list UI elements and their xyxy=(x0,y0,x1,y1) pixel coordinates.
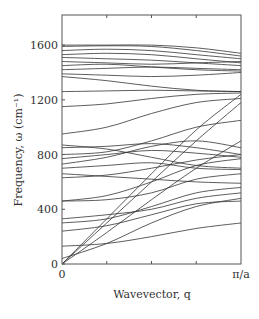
band-line xyxy=(62,67,241,70)
band-line xyxy=(62,72,241,76)
y-tick-label: 800 xyxy=(37,149,58,162)
band-line xyxy=(62,141,241,164)
chart-root: 040080012001600 0π/a Wavevector, q Frequ… xyxy=(0,0,259,319)
y-tick-label: 0 xyxy=(51,258,58,271)
band-line xyxy=(62,64,241,71)
band-lines xyxy=(62,45,241,264)
y-axis-title: Frequency, ω (cm⁻¹) xyxy=(12,94,25,207)
band-line xyxy=(62,223,241,246)
band-line xyxy=(62,155,241,178)
y-tick-label: 1200 xyxy=(30,94,58,107)
band-line xyxy=(62,93,241,107)
y-tick-label: 400 xyxy=(37,203,58,216)
band-line xyxy=(62,159,241,201)
band-line xyxy=(62,174,241,201)
band-line xyxy=(62,103,241,264)
phonon-dispersion-plot: 040080012001600 0π/a Wavevector, q Frequ… xyxy=(0,0,259,319)
x-tick-label: 0 xyxy=(59,268,66,281)
band-line xyxy=(62,77,241,92)
x-tick-label: π/a xyxy=(232,268,250,281)
y-tick-label: 1600 xyxy=(30,39,58,52)
x-axis-title: Wavevector, q xyxy=(113,288,191,301)
band-line xyxy=(62,98,241,134)
band-line xyxy=(62,144,241,155)
x-axis-ticks: 0π/a xyxy=(59,268,251,281)
